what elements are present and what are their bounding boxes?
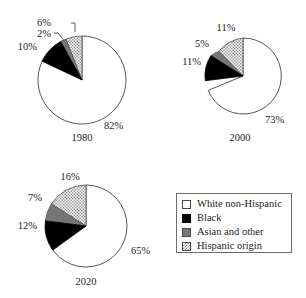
year-label-2020: 2020 bbox=[76, 276, 97, 287]
legend-label-hispanic: Hispanic origin bbox=[197, 240, 262, 252]
white-swatch-icon bbox=[182, 200, 191, 209]
legend-item-hispanic[interactable]: Hispanic origin bbox=[182, 239, 287, 253]
legend-item-asian[interactable]: Asian and other bbox=[182, 225, 287, 239]
label-2020-white: 65% bbox=[131, 245, 151, 256]
label-1980-black: 10% bbox=[18, 41, 38, 52]
label-2000-white: 73% bbox=[265, 114, 285, 125]
legend-label-asian: Asian and other bbox=[197, 226, 263, 238]
year-label-1980: 1980 bbox=[72, 132, 93, 143]
legend-item-white[interactable]: White non-Hispanic bbox=[182, 197, 287, 211]
label-1980-asian: 2% bbox=[37, 28, 51, 39]
legend-label-white: White non-Hispanic bbox=[197, 198, 282, 210]
pie-2000: 11% 5% 11% 73% 2000 bbox=[182, 22, 284, 143]
year-label-2000: 2000 bbox=[230, 132, 251, 143]
label-2000-hispanic: 11% bbox=[217, 22, 236, 33]
black-swatch-icon bbox=[182, 214, 191, 223]
figure-canvas: 6% 2% 10% 82% 1980 11% 5% 11% 73% 2000 bbox=[0, 0, 306, 298]
pie-chart-figure: 6% 2% 10% 82% 1980 11% 5% 11% 73% 2000 bbox=[0, 0, 306, 298]
label-2000-asian: 5% bbox=[195, 38, 209, 49]
label-2020-black: 12% bbox=[18, 220, 38, 231]
pie-1980: 6% 2% 10% 82% 1980 bbox=[18, 17, 126, 143]
label-2000-black: 11% bbox=[182, 56, 201, 67]
label-1980-hispanic: 6% bbox=[37, 17, 51, 28]
gray-swatch-icon bbox=[182, 228, 191, 237]
leader-line-1980-hispanic bbox=[71, 23, 75, 32]
pie-2020: 16% 7% 12% 65% 2020 bbox=[18, 171, 151, 287]
hatch-swatch-icon bbox=[182, 242, 191, 251]
label-2020-hispanic: 16% bbox=[60, 171, 80, 182]
legend-label-black: Black bbox=[197, 212, 222, 224]
legend: White non-Hispanic Black Asian and other… bbox=[176, 193, 292, 253]
legend-item-black[interactable]: Black bbox=[182, 211, 287, 225]
label-1980-white: 82% bbox=[104, 120, 124, 131]
leader-line-1980-asian bbox=[54, 33, 64, 40]
label-2020-asian: 7% bbox=[28, 192, 42, 203]
